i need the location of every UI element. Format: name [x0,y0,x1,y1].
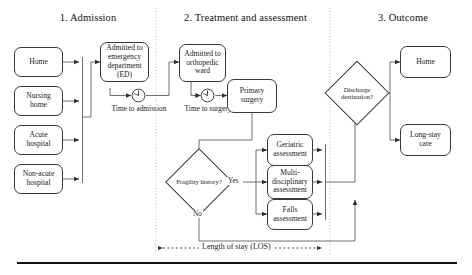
flowchart-canvas: 1. Admission 2. Treatment and assessment… [0,0,472,275]
source-nursing-home[interactable]: Nursing home [14,86,63,116]
source-home[interactable]: Home [14,47,63,77]
assessment-multidisciplinary[interactable]: Multi-disciplinary assessment [267,165,313,199]
edge-label-yes: Yes [227,177,239,185]
decision-fragility-history[interactable]: Fragility history? [175,158,223,206]
decision-discharge-destination[interactable]: Discharge destination? [334,70,380,116]
assessment-falls[interactable]: Falls assessment [267,199,313,230]
decision-fragility-label: Fragility history? [175,158,223,206]
clock-icon-time-to-surgery [200,88,215,103]
phase-title-admission: 1. Admission [28,12,148,23]
assessment-geriatric[interactable]: Geriatric assessment [267,134,313,166]
source-non-acute-hospital[interactable]: Non-acute hospital [14,164,63,194]
clock-icon-time-to-admission [131,88,146,103]
decision-discharge-label: Discharge destination? [334,70,380,116]
phase-title-treatment: 2. Treatment and assessment [168,12,323,23]
label-length-of-stay: Length of stay (LOS) [199,242,274,251]
node-admitted-emergency-department[interactable]: Admitted to emergency department (ED) [100,42,149,82]
edge-label-no: No [192,210,203,218]
label-time-to-admission: Time to admission [107,105,171,114]
node-primary-surgery[interactable]: Primary surgery [227,79,277,113]
phase-title-outcome: 3. Outcome [348,12,458,23]
bottom-rule [17,262,457,264]
outcome-home[interactable]: Home [400,46,451,78]
outcome-long-stay-care[interactable]: Long-stay care [400,124,451,156]
node-admitted-orthopedic-ward[interactable]: Admitted to orthopedic ward [179,44,226,82]
source-acute-hospital[interactable]: Acute hospital [14,125,63,155]
